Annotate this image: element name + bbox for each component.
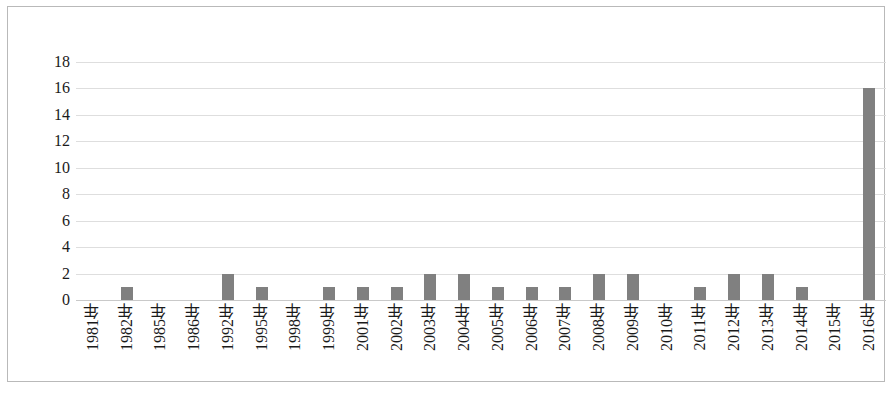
- bar-slot: [144, 62, 178, 300]
- x-axis-tick-label: 1992年: [220, 303, 236, 351]
- bar-slot: [110, 62, 144, 300]
- x-axis-tick-label: 2006年: [524, 303, 540, 351]
- bar[interactable]: [458, 274, 470, 300]
- x-axis-tick-label: 2002年: [389, 303, 405, 351]
- x-axis-label-slot: 1985年: [144, 303, 178, 397]
- x-axis-tick-label: 1981年: [85, 303, 101, 351]
- y-axis-tick-label: 4: [30, 239, 70, 255]
- bar-slot: [819, 62, 853, 300]
- x-axis-tick-label: 1985年: [152, 303, 168, 351]
- x-axis-tick-label: 2014年: [794, 303, 810, 351]
- bar[interactable]: [492, 287, 504, 300]
- y-axis-tick-label: 0: [30, 292, 70, 308]
- bar-slot: [616, 62, 650, 300]
- bar[interactable]: [323, 287, 335, 300]
- bar[interactable]: [627, 274, 639, 300]
- bar[interactable]: [222, 274, 234, 300]
- bar-slot: [414, 62, 448, 300]
- y-axis-tick-label: 18: [30, 54, 70, 70]
- x-axis-label-slot: 2008年: [582, 303, 616, 397]
- bar[interactable]: [526, 287, 538, 300]
- y-axis-tick-label: 12: [30, 133, 70, 149]
- bar-slot: [852, 62, 886, 300]
- bar[interactable]: [796, 287, 808, 300]
- bar-slot: [684, 62, 718, 300]
- x-axis-tick-label: 2012年: [726, 303, 742, 351]
- chart-frame: 181614121086420 1981年1982年1985年1986年1992…: [7, 6, 885, 382]
- y-axis-tick-label: 8: [30, 186, 70, 202]
- bar[interactable]: [559, 287, 571, 300]
- bar[interactable]: [593, 274, 605, 300]
- bar-slot: [76, 62, 110, 300]
- x-axis-tick-label: 2009年: [625, 303, 641, 351]
- y-axis-tick-label: 6: [30, 213, 70, 229]
- x-axis-label-slot: 2010年: [650, 303, 684, 397]
- x-axis-tick-label: 1986年: [186, 303, 202, 351]
- x-axis-tick-label: 1995年: [254, 303, 270, 351]
- bar-slot: [751, 62, 785, 300]
- y-axis-tick-label: 10: [30, 160, 70, 176]
- x-axis-tick-label: 2007年: [557, 303, 573, 351]
- x-axis-label-slot: 2016年: [852, 303, 886, 397]
- x-axis-tick-label: 1982年: [119, 303, 135, 351]
- x-axis-label-slot: 2013年: [751, 303, 785, 397]
- x-axis-label-slot: 2001年: [346, 303, 380, 397]
- bar-slot: [582, 62, 616, 300]
- x-axis-label-slot: 1998年: [279, 303, 313, 397]
- bar-slot: [515, 62, 549, 300]
- x-axis-label-slot: 2002年: [380, 303, 414, 397]
- bar[interactable]: [863, 88, 875, 300]
- x-axis: 1981年1982年1985年1986年1992年1995年1998年1999年…: [76, 303, 886, 397]
- bar-slot: [245, 62, 279, 300]
- x-axis-label-slot: 2007年: [549, 303, 583, 397]
- x-axis-tick-label: 1998年: [287, 303, 303, 351]
- x-axis-label-slot: 2006年: [515, 303, 549, 397]
- bar[interactable]: [694, 287, 706, 300]
- x-axis-label-slot: 1981年: [76, 303, 110, 397]
- x-axis-label-slot: 1982年: [110, 303, 144, 397]
- bar-slot: [279, 62, 313, 300]
- x-axis-label-slot: 2005年: [481, 303, 515, 397]
- bar[interactable]: [121, 287, 133, 300]
- x-axis-tick-label: 2011年: [692, 303, 708, 350]
- x-axis-tick-label: 2003年: [422, 303, 438, 351]
- bar-slot: [312, 62, 346, 300]
- x-axis-label-slot: 2009年: [616, 303, 650, 397]
- x-axis-label-slot: 1992年: [211, 303, 245, 397]
- x-axis-tick-label: 2010年: [659, 303, 675, 351]
- bar-slot: [447, 62, 481, 300]
- bar[interactable]: [728, 274, 740, 300]
- y-axis: 181614121086420: [24, 62, 70, 300]
- bar[interactable]: [424, 274, 436, 300]
- x-axis-tick-label: 2015年: [827, 303, 843, 351]
- x-axis-tick-label: 2008年: [591, 303, 607, 351]
- x-axis-tick-label: 2001年: [355, 303, 371, 351]
- bar-series: [76, 62, 886, 300]
- bar[interactable]: [762, 274, 774, 300]
- x-axis-tick-label: 2005年: [490, 303, 506, 351]
- x-axis-label-slot: 2003年: [414, 303, 448, 397]
- x-axis-tick-label: 1999年: [321, 303, 337, 351]
- bar-slot: [717, 62, 751, 300]
- x-axis-tick-label: 2004年: [456, 303, 472, 351]
- x-axis-label-slot: 2014年: [785, 303, 819, 397]
- x-axis-label-slot: 1999年: [312, 303, 346, 397]
- bar-slot: [481, 62, 515, 300]
- bar-slot: [549, 62, 583, 300]
- bar-slot: [211, 62, 245, 300]
- gridline: [76, 300, 886, 301]
- y-axis-tick-label: 14: [30, 107, 70, 123]
- x-axis-label-slot: 2012年: [717, 303, 751, 397]
- y-axis-tick-label: 2: [30, 266, 70, 282]
- bar[interactable]: [256, 287, 268, 300]
- y-axis-tick-label: 16: [30, 80, 70, 96]
- bar-slot: [346, 62, 380, 300]
- bar[interactable]: [391, 287, 403, 300]
- bar[interactable]: [357, 287, 369, 300]
- bar-slot: [380, 62, 414, 300]
- chart-page: 181614121086420 1981年1982年1985年1986年1992…: [0, 0, 894, 397]
- x-axis-label-slot: 1986年: [177, 303, 211, 397]
- x-axis-label-slot: 2011年: [684, 303, 718, 397]
- bar-slot: [177, 62, 211, 300]
- bar-slot: [650, 62, 684, 300]
